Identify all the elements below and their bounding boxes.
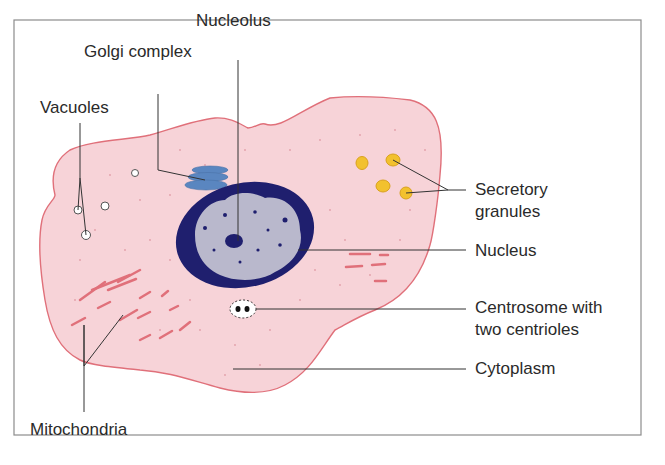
label-mitochondria: Mitochondria [30,419,127,441]
label-nucleolus: Nucleolus [196,10,271,32]
nucleolus [225,234,243,248]
label-secretory-granules-2: granules [475,201,540,223]
label-cytoplasm: Cytoplasm [475,358,555,380]
label-secretory-granules-1: Secretory [475,179,548,201]
label-centrosome-1: Centrosome with [475,297,603,319]
cell-diagram [0,0,665,465]
label-golgi-complex: Golgi complex [84,41,192,63]
centrosome [230,300,256,318]
label-centrosome-2: two centrioles [475,319,579,341]
label-nucleus: Nucleus [475,240,536,262]
label-vacuoles: Vacuoles [40,97,109,119]
